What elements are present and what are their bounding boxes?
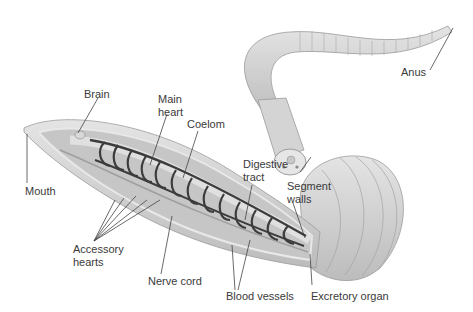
worm-tail	[244, 26, 452, 175]
label-digestive-tract-line1: Digestive	[243, 158, 288, 171]
label-brain: Brain	[84, 88, 110, 101]
label-mouth: Mouth	[25, 185, 56, 198]
label-accessory-hearts-line2: hearts	[73, 256, 104, 269]
label-accessory-hearts-line1: Accessory	[73, 243, 124, 256]
label-anus: Anus	[401, 66, 426, 79]
label-segment-walls-line2: walls	[287, 193, 311, 206]
label-excretory-organ: Excretory organ	[311, 290, 389, 303]
label-main-heart-line2: heart	[158, 106, 183, 119]
label-blood-vessels: Blood vessels	[226, 290, 294, 303]
label-main-heart-line1: Main	[158, 93, 182, 106]
earthworm-illustration	[0, 0, 473, 312]
label-coelom: Coelom	[187, 118, 225, 131]
earthworm-diagram: Brain Main heart Coelom Mouth Digestive …	[0, 0, 473, 312]
label-nerve-cord: Nerve cord	[148, 275, 202, 288]
label-digestive-tract-line2: tract	[243, 171, 264, 184]
label-segment-walls-line1: Segment	[287, 180, 331, 193]
